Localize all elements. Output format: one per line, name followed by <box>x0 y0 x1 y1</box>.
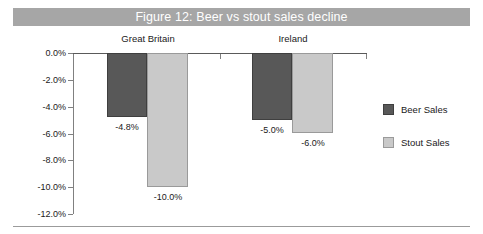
bar-stout-great-britain[interactable] <box>147 53 188 187</box>
y-tick-label: -4.0% <box>42 102 66 112</box>
bar-beer-great-britain[interactable] <box>107 53 147 117</box>
y-tick-label: -10.0% <box>37 182 66 192</box>
y-tick-mark <box>68 214 73 215</box>
y-tick-label: 0.0% <box>45 48 66 58</box>
data-label-stout-great-britain: -10.0% <box>154 192 183 202</box>
category-label-ireland: Ireland <box>278 33 307 44</box>
data-label-stout-ireland: -6.0% <box>301 138 325 148</box>
y-tick-label: -8.0% <box>42 155 66 165</box>
data-label-beer-ireland: -5.0% <box>260 125 284 135</box>
legend-swatch-icon <box>383 104 394 115</box>
data-label-beer-great-britain: -4.8% <box>115 122 139 132</box>
bar-stout-ireland[interactable] <box>292 53 333 133</box>
y-tick-label: -6.0% <box>42 129 66 139</box>
legend-label-beer-sales: Beer Sales <box>401 104 447 115</box>
bar-beer-ireland[interactable] <box>252 53 292 120</box>
category-tick <box>220 54 221 59</box>
y-tick-label: -2.0% <box>42 75 66 85</box>
category-label-great-britain: Great Britain <box>121 33 174 44</box>
legend-swatch-icon <box>383 137 394 148</box>
figure-bottom-rule <box>13 226 470 227</box>
legend-label-stout-sales: Stout Sales <box>401 137 450 148</box>
y-tick-label: -12.0% <box>37 209 66 219</box>
legend-item-beer-sales[interactable]: Beer Sales <box>383 102 450 116</box>
y-axis-line <box>73 53 74 214</box>
category-tick <box>366 54 367 59</box>
figure-container: Figure 12: Beer vs stout sales decline 0… <box>0 0 483 234</box>
legend-item-stout-sales[interactable]: Stout Sales <box>383 135 450 149</box>
chart-legend: Beer Sales Stout Sales <box>383 102 450 168</box>
chart-plot-area: 0.0%-2.0%-4.0%-6.0%-8.0%-10.0%-12.0% Gre… <box>0 0 483 234</box>
